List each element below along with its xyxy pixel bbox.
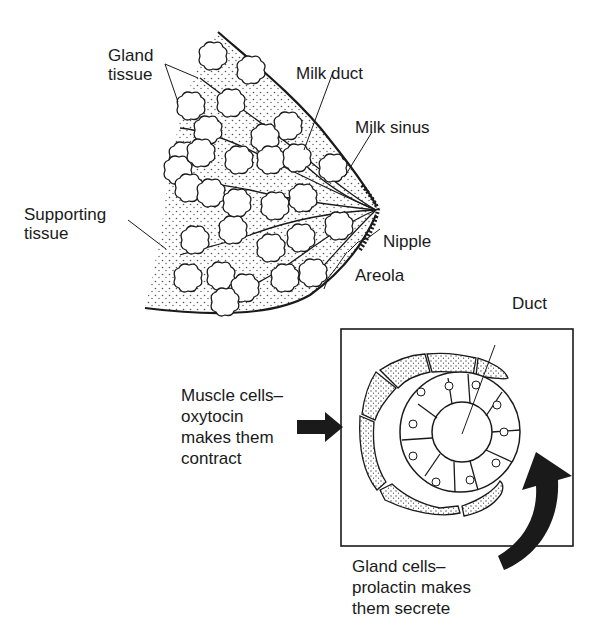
label-gland-tissue: Gland tissue [108, 46, 153, 84]
label-areola: Areola [355, 266, 404, 285]
label-nipple: Nipple [383, 232, 431, 251]
label-gland-cells: Gland cells– prolactin makes them secret… [352, 556, 471, 619]
diagram-artwork [0, 0, 598, 642]
label-duct: Duct [512, 294, 547, 313]
label-milk-duct: Milk duct [296, 64, 363, 83]
label-muscle-cells: Muscle cells– oxytocin makes them contra… [181, 385, 283, 469]
label-milk-sinus: Milk sinus [355, 118, 430, 137]
muscle-arrow-icon [297, 412, 343, 442]
label-supporting-tissue: Supporting tissue [24, 205, 106, 243]
